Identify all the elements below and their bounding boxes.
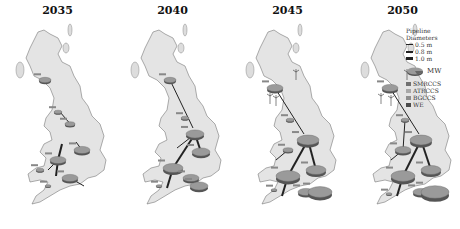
pie-chart-icon — [406, 66, 424, 77]
swatch-icon — [406, 89, 411, 93]
legend-pipe-medium: 0.8 m — [406, 48, 460, 55]
map-panel-2045: 2045 — [230, 0, 345, 229]
legend-label: 0.8 m — [415, 48, 432, 55]
swatch-icon — [406, 82, 411, 86]
legend-subtitle: Diameters — [406, 34, 460, 41]
legend-pipe-large: 1.0 m — [406, 55, 460, 62]
swatch-icon — [406, 103, 411, 107]
legend-tech-atrccs: ATRCCS — [406, 87, 460, 94]
legend-label: 0.5 m — [415, 41, 432, 48]
uk-map-2040 — [115, 0, 230, 229]
uk-map-2045 — [230, 0, 345, 229]
legend-label: ATRCCS — [413, 87, 439, 94]
legend-title: Pipeline — [406, 27, 460, 34]
legend: Pipeline Diameters 0.5 m 0.8 m 1.0 m MW … — [406, 27, 460, 108]
legend-pipe-small: 0.5 m — [406, 41, 460, 48]
pipe-line-icon — [406, 57, 413, 60]
legend-label: WE — [413, 101, 424, 108]
legend-label: 1.0 m — [415, 55, 432, 62]
uk-map-2035 — [0, 0, 115, 229]
legend-pie: MW — [406, 66, 460, 77]
legend-label: SMRCCS — [413, 80, 441, 87]
swatch-icon — [406, 96, 411, 100]
legend-tech-smrccs: SMRCCS — [406, 80, 460, 87]
legend-tech-we: WE — [406, 101, 460, 108]
map-panel-2035: 2035 — [0, 0, 115, 229]
legend-tech-bgccs: BGCCS — [406, 94, 460, 101]
pipe-line-icon — [406, 51, 413, 53]
pipe-line-icon — [406, 44, 413, 45]
legend-label: BGCCS — [413, 94, 436, 101]
map-panel-2040: 2040 — [115, 0, 230, 229]
legend-label: MW — [427, 68, 441, 75]
